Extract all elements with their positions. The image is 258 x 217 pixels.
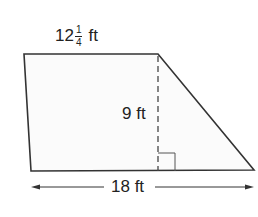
arrowhead-right-icon bbox=[245, 185, 254, 190]
fraction-denominator: 4 bbox=[76, 37, 82, 48]
fraction-numerator: 1 bbox=[75, 25, 83, 37]
arrowhead-left-icon bbox=[31, 185, 40, 190]
top-base-fraction: 1 4 bbox=[75, 25, 83, 48]
top-base-whole: 12 bbox=[55, 27, 74, 44]
top-base-label: 12 1 4 ft bbox=[55, 24, 98, 47]
top-base-unit: ft bbox=[88, 27, 97, 44]
bottom-base-label: 18 ft bbox=[107, 178, 148, 195]
height-label: 9 ft bbox=[121, 105, 147, 122]
